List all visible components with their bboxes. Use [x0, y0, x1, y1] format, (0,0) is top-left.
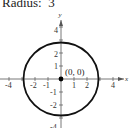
- x-tick-label: 4: [111, 81, 115, 90]
- x-tick-label: -4: [5, 81, 12, 90]
- y-tick-label: 1: [54, 62, 58, 71]
- y-axis-label: y: [58, 11, 63, 19]
- y-tick-label: 2: [54, 50, 58, 59]
- y-axis-arrow-icon: [59, 20, 63, 26]
- y-tick-label: -1: [50, 88, 57, 97]
- x-axis-label: x: [124, 75, 129, 83]
- x-tick-label: -1: [43, 81, 50, 90]
- y-tick-label: 4: [54, 26, 58, 35]
- circle-graph: x y -4 -2 -1 1 2 4 4 2 1 -1 -2 -4: [0, 0, 129, 128]
- x-tick-label: 1: [72, 81, 76, 90]
- x-tick-label: 2: [85, 81, 89, 90]
- center-point: [59, 77, 64, 82]
- center-point-label: (0, 0): [65, 67, 85, 77]
- x-axis-arrow-icon: [118, 77, 124, 81]
- y-tick-label: -4: [50, 123, 57, 128]
- x-tick-label: -2: [30, 81, 37, 90]
- y-tick-label: -2: [50, 101, 57, 110]
